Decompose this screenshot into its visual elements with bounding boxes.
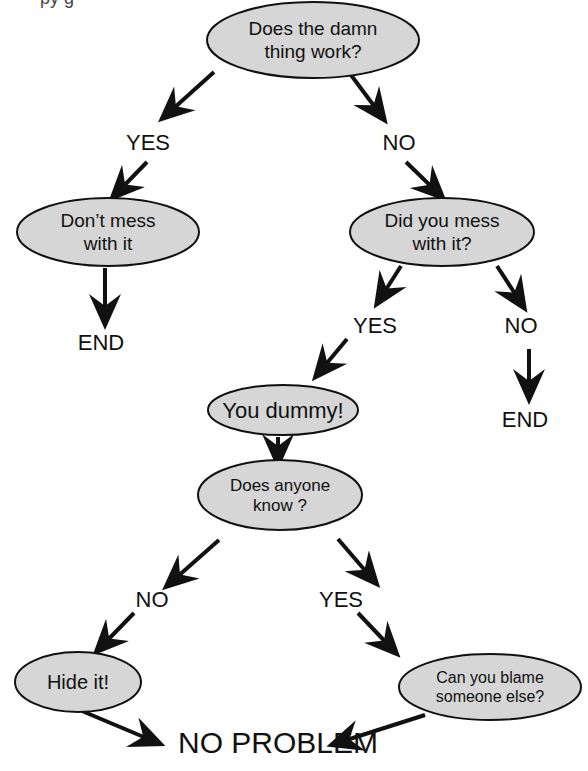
nodes: Does the damnthing work?Don’t messwith i… xyxy=(15,2,581,720)
label-yes-3: YES xyxy=(319,587,363,612)
arrow-anyone-know-to-no-3 xyxy=(168,540,219,585)
label-end-1: END xyxy=(78,330,124,355)
node-text-line: someone else? xyxy=(436,688,545,705)
node-blame: Can you blamesomeone else? xyxy=(399,654,581,720)
node-ellipse xyxy=(207,2,419,78)
arrow-yes-3-to-blame xyxy=(358,613,395,652)
node-ellipse xyxy=(350,198,534,266)
node-text-line: with it? xyxy=(411,233,471,254)
arrow-yes-1-to-dont-mess xyxy=(114,162,147,196)
flowchart: Does the damnthing work?Don’t messwith i… xyxy=(0,0,588,771)
node-dont-mess: Don’t messwith it xyxy=(17,198,199,266)
node-text-line: Does anyone xyxy=(230,476,330,495)
label-no-problem: NO PROBLEM xyxy=(178,726,378,759)
arrow-did-you-mess-to-no-2 xyxy=(497,266,523,306)
node-text-line: You dummy! xyxy=(222,398,343,423)
node-ellipse xyxy=(17,198,199,266)
node-you-dummy: You dummy! xyxy=(208,385,358,435)
arrow-hide-it-to-no-problem xyxy=(82,711,158,743)
node-text-line: know ? xyxy=(253,496,307,515)
label-no-1: NO xyxy=(383,130,416,155)
node-works: Does the damnthing work? xyxy=(207,2,419,78)
node-ellipse xyxy=(198,460,362,530)
node-text-line: Don’t mess xyxy=(60,210,155,231)
label-yes-1: YES xyxy=(126,130,170,155)
node-text-line: Hide it! xyxy=(47,671,109,693)
arrow-yes-2-to-you-dummy xyxy=(317,339,347,375)
label-no-2: NO xyxy=(505,313,538,338)
arrow-anyone-know-to-yes-3 xyxy=(338,539,375,582)
arrow-works-to-yes-1 xyxy=(164,72,214,117)
node-text-line: Can you blame xyxy=(436,669,544,686)
node-ellipse xyxy=(399,654,581,720)
node-text-line: Did you mess xyxy=(384,210,499,231)
node-text-line: Does the damn xyxy=(249,18,378,39)
label-end-2: END xyxy=(502,407,548,432)
node-hide-it: Hide it! xyxy=(15,652,141,712)
label-yes-2: YES xyxy=(353,313,397,338)
arrow-did-you-mess-to-yes-2 xyxy=(378,266,401,302)
node-anyone-know: Does anyoneknow ? xyxy=(198,460,362,530)
label-no-3: NO xyxy=(136,587,169,612)
arrow-works-to-no-1 xyxy=(351,75,383,118)
node-text-line: thing work? xyxy=(264,41,361,62)
node-text-line: with it xyxy=(83,233,133,254)
arrow-no-3-to-hide-it xyxy=(98,613,134,650)
node-did-you-mess: Did you messwith it? xyxy=(350,198,534,266)
arrow-no-1-to-did-you-mess xyxy=(406,162,441,196)
